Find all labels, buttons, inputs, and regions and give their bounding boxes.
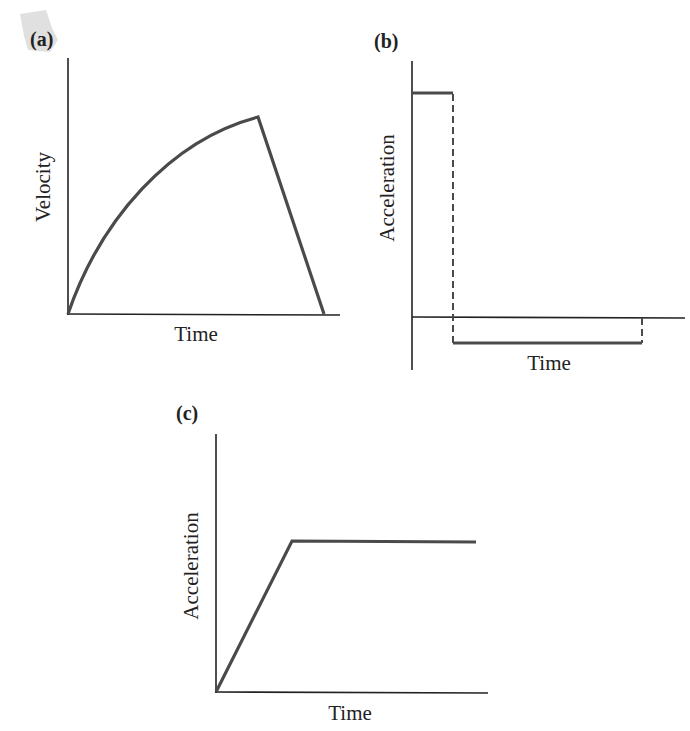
figure-canvas: (a) Time Velocity (b) Time Acceleration …: [0, 0, 690, 731]
panel-c: (c) Time Acceleration: [176, 402, 488, 725]
panel-c-acceleration-curve: [216, 541, 476, 692]
panel-a-x-axis: [67, 314, 340, 315]
panel-b-label: (b): [374, 30, 398, 53]
panel-c-x-label: Time: [328, 701, 372, 725]
panel-a-label: (a): [30, 28, 53, 51]
panel-a-x-label: Time: [174, 322, 218, 346]
panel-c-label: (c): [176, 402, 198, 425]
panel-a-velocity-curve: [68, 117, 324, 314]
panel-b-y-label: Acceleration: [375, 134, 399, 242]
panel-a: (a) Time Velocity: [20, 10, 340, 346]
panel-c-y-label: Acceleration: [179, 512, 203, 620]
panel-b: (b) Time Acceleration: [374, 30, 685, 375]
panel-b-x-label: Time: [527, 351, 571, 375]
panel-c-x-axis: [215, 692, 488, 693]
panel-a-y-label: Velocity: [31, 152, 55, 222]
